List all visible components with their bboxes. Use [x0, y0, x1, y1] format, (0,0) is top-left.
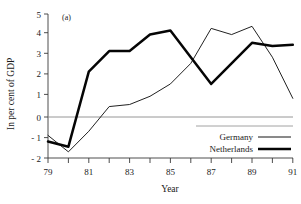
y-tick-label-2: 2	[37, 69, 42, 79]
panel-label: (a)	[62, 13, 71, 22]
y-tick-label-3: 3	[37, 49, 42, 59]
y-tick-label-4: 4	[37, 28, 42, 38]
x-tick-label-81: 81	[84, 167, 93, 177]
legend-label-germany: Germany	[220, 132, 254, 142]
x-tick-label-83: 83	[125, 167, 135, 177]
y-tick-label-0: 0	[37, 113, 42, 123]
chart-figure: In per cent of GDP (a) 5 4 3 2 1 0 - 1 -…	[0, 0, 301, 204]
legend-label-netherlands: Netherlands	[210, 144, 254, 154]
x-axis-title: Year	[161, 184, 179, 194]
y-tick-label-1: 1	[37, 90, 42, 100]
x-tick-label-91: 91	[288, 167, 297, 177]
y-tick-label-neg1: - 1	[31, 133, 41, 143]
y-tick-label-5: 5	[37, 10, 42, 20]
y-tick-label-neg2: - 2	[31, 154, 41, 164]
y-axis-title: In per cent of GDP	[6, 58, 16, 130]
x-tick-label-89: 89	[248, 167, 258, 177]
x-tick-label-87: 87	[207, 167, 217, 177]
x-tick-label-79: 79	[44, 167, 54, 177]
x-tick-label-85: 85	[166, 167, 176, 177]
